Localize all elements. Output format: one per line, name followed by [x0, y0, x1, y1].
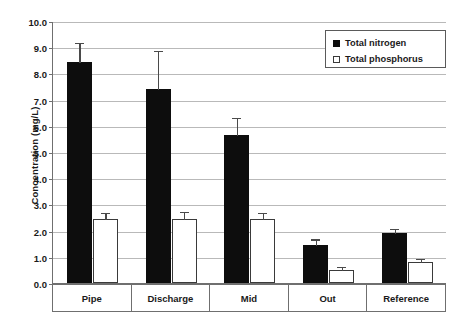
legend-item-total-phosphorus: Total phosphorus — [333, 51, 445, 67]
y-axis-tick-label: 10.0 — [5, 17, 47, 28]
error-bar-cap — [75, 43, 84, 44]
bar-total-nitrogen — [303, 245, 328, 283]
y-axis-tick-label: 1.0 — [5, 252, 47, 263]
bar-group — [132, 22, 211, 283]
bar-total-phosphorus — [408, 262, 433, 283]
bar-group — [53, 22, 132, 283]
filled-square-icon — [333, 40, 340, 47]
x-axis-category-label: Reference — [367, 285, 445, 311]
bar-total-nitrogen — [67, 62, 92, 283]
y-axis-tick-label: 8.0 — [5, 69, 47, 80]
bar-total-phosphorus — [250, 219, 275, 283]
legend-item-total-nitrogen: Total nitrogen — [333, 35, 445, 51]
bar-chart: Concentration (mg/L) 0.01.02.03.04.05.06… — [0, 0, 460, 330]
bar-total-nitrogen — [382, 233, 407, 283]
error-bar-cap — [232, 118, 241, 119]
legend-item-label: Total nitrogen — [345, 38, 406, 48]
bar-total-phosphorus — [329, 270, 354, 283]
bar-group — [211, 22, 290, 283]
error-bar — [158, 51, 159, 90]
bar-total-phosphorus — [93, 219, 118, 283]
error-bar-cap — [258, 213, 267, 214]
error-bar-cap — [154, 51, 163, 52]
y-axis-tick-label: 6.0 — [5, 121, 47, 132]
error-bar-cap — [337, 267, 346, 268]
chart-legend: Total nitrogen Total phosphorus — [325, 30, 446, 68]
error-bar-cap — [180, 212, 189, 213]
x-axis-category-label: Discharge — [132, 285, 211, 311]
y-axis-tick-label: 4.0 — [5, 174, 47, 185]
x-axis-category-labels: PipeDischargeMidOutReference — [52, 284, 446, 312]
error-bar-cap — [101, 213, 110, 214]
y-axis-tick-label: 3.0 — [5, 200, 47, 211]
error-bar-cap — [311, 239, 320, 240]
x-axis-category-label: Out — [289, 285, 368, 311]
x-axis-category-label: Mid — [210, 285, 289, 311]
error-bar-cap — [416, 259, 425, 260]
y-axis-tick-label: 9.0 — [5, 43, 47, 54]
error-bar — [79, 43, 80, 63]
error-bar-cap — [390, 229, 399, 230]
y-axis-tick-label: 2.0 — [5, 226, 47, 237]
y-axis-tick-label: 5.0 — [5, 148, 47, 159]
bar-total-phosphorus — [172, 219, 197, 283]
x-axis-category-label: Pipe — [53, 285, 132, 311]
error-bar — [237, 118, 238, 136]
y-axis-tick-label: 0.0 — [5, 279, 47, 290]
legend-item-label: Total phosphorus — [345, 54, 423, 64]
open-square-icon — [333, 56, 340, 63]
bar-total-nitrogen — [224, 135, 249, 283]
bar-total-nitrogen — [146, 89, 171, 283]
y-axis-tick-label: 7.0 — [5, 95, 47, 106]
